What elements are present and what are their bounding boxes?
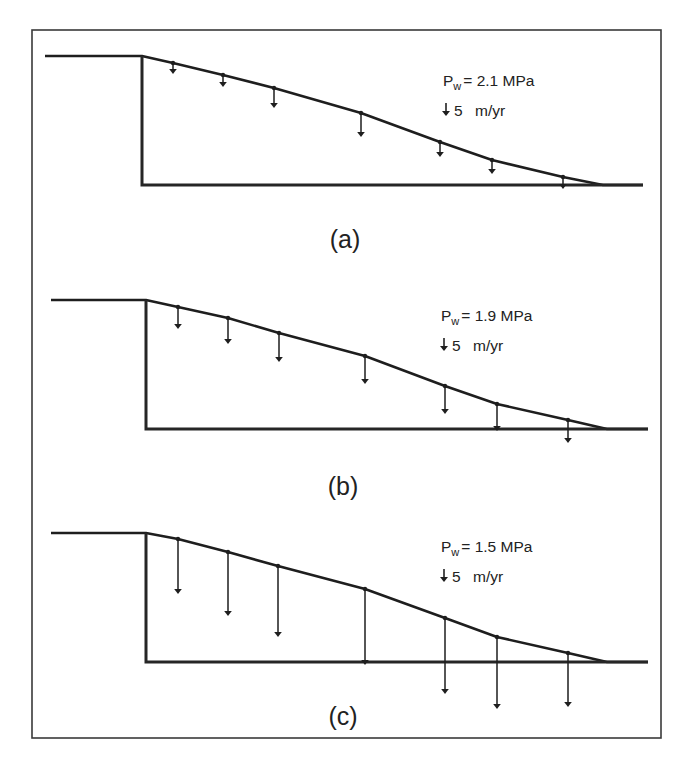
scale-value: 5 — [454, 102, 463, 119]
panel-label: (b) — [328, 472, 359, 500]
velocity-arrow — [493, 635, 501, 709]
velocity-arrow — [361, 587, 369, 665]
panel-b: Pw= 1.9 MPa 5 m/yr (b) — [51, 300, 648, 500]
scale-unit: m/yr — [473, 568, 503, 585]
pressure-value: = 2.1 MPa — [463, 72, 534, 89]
pressure-value: = 1.5 MPa — [461, 538, 532, 555]
velocity-arrows — [174, 305, 572, 443]
panel-label: (a) — [330, 225, 361, 253]
velocity-arrow — [441, 616, 449, 694]
velocity-arrow — [274, 564, 282, 637]
panel-a: Pw= 2.1 MPa 5 m/yr (a) — [45, 56, 643, 253]
pressure-symbol: P — [443, 72, 453, 89]
pressure-symbol: P — [441, 307, 451, 324]
scale-unit: m/yr — [475, 102, 505, 119]
panel-label: (c) — [328, 702, 357, 730]
scale-legend: 5 m/yr — [440, 337, 503, 354]
down-arrow-icon — [440, 338, 448, 351]
ice-surface-profile — [51, 300, 648, 429]
ice-surface-profile — [45, 56, 643, 185]
scale-value: 5 — [452, 337, 461, 354]
pressure-label: Pw= 2.1 MPa — [443, 72, 535, 92]
pressure-label: Pw= 1.9 MPa — [441, 307, 533, 327]
velocity-arrow — [441, 384, 449, 414]
pressure-subscript: w — [450, 315, 459, 327]
velocity-arrows — [174, 537, 572, 709]
down-arrow-icon — [442, 103, 450, 116]
bed-profile — [146, 533, 648, 662]
scale-unit: m/yr — [473, 337, 503, 354]
velocity-arrow — [564, 651, 572, 707]
scale-legend: 5 m/yr — [442, 102, 505, 119]
panel-c: Pw= 1.5 MPa 5 m/yr (c) — [51, 533, 648, 730]
velocity-arrow — [224, 550, 232, 616]
pressure-subscript: w — [452, 80, 461, 92]
bed-profile — [142, 56, 643, 185]
glacier-velocity-figure: Pw= 2.1 MPa 5 m/yr (a) Pw= 1.9 MPa 5 m/y… — [0, 0, 691, 767]
bed-profile — [146, 300, 648, 429]
velocity-arrow — [493, 402, 501, 431]
pressure-label: Pw= 1.5 MPa — [441, 538, 533, 558]
down-arrow-icon — [440, 569, 448, 582]
pressure-symbol: P — [441, 538, 451, 555]
velocity-arrow — [275, 331, 283, 362]
scale-value: 5 — [452, 568, 461, 585]
figure-frame — [32, 30, 661, 738]
velocity-arrow — [174, 537, 182, 594]
scale-legend: 5 m/yr — [440, 568, 503, 585]
pressure-subscript: w — [450, 546, 459, 558]
ice-surface-profile — [51, 533, 648, 662]
pressure-value: = 1.9 MPa — [461, 307, 532, 324]
